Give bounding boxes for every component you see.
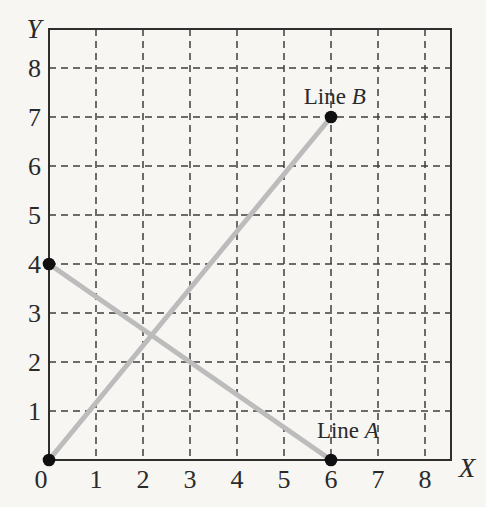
x-tick-3: 3	[184, 465, 197, 494]
y-tick-4: 4	[28, 250, 41, 279]
label-line-a: Line A	[317, 418, 380, 443]
series-line-b	[49, 117, 331, 460]
x-tick-0: 0	[35, 465, 48, 494]
y-tick-3: 3	[28, 299, 41, 328]
x-tick-6: 6	[325, 465, 338, 494]
gridlines	[49, 29, 451, 460]
y-tick-5: 5	[28, 201, 41, 230]
data-point-0-4	[43, 258, 56, 271]
x-tick-1: 1	[90, 465, 103, 494]
x-axis-label: X	[458, 453, 477, 483]
x-tick-8: 8	[419, 465, 432, 494]
y-tick-1: 1	[28, 397, 41, 426]
label-line-b: Line B	[304, 84, 366, 109]
x-tick-7: 7	[372, 465, 385, 494]
y-axis-label: Y	[26, 14, 44, 44]
plot-border	[49, 29, 451, 460]
line-chart: 01234567812345678 Line BLine A X Y	[0, 0, 486, 507]
x-tick-5: 5	[278, 465, 291, 494]
chart-page: 01234567812345678 Line BLine A X Y	[0, 0, 486, 507]
plot-frame	[49, 29, 451, 460]
x-tick-2: 2	[137, 465, 150, 494]
data-point-6-7	[325, 111, 338, 124]
y-tick-7: 7	[28, 103, 41, 132]
series-lines	[49, 117, 331, 460]
y-tick-2: 2	[28, 348, 41, 377]
y-tick-6: 6	[28, 152, 41, 181]
y-tick-8: 8	[28, 54, 41, 83]
x-tick-4: 4	[231, 465, 244, 494]
